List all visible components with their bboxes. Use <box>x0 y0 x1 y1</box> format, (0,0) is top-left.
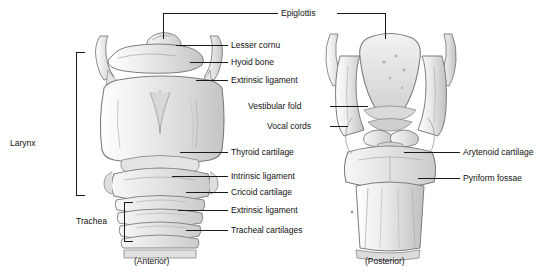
label-extrinsic-ligament-upper: Extrinsic ligament <box>231 75 298 85</box>
leader-epiglottis-v2 <box>385 13 386 39</box>
leader-lesser-cornu <box>176 45 228 46</box>
leader-epiglottis-v <box>163 13 164 39</box>
leader-cricoid-cartilage <box>186 192 228 193</box>
label-arytenoid-cartilage: Arytenoid cartilage <box>463 147 533 157</box>
leader-hyoid-bone <box>190 62 228 63</box>
leader-extrinsic-ligament-upper <box>196 80 228 81</box>
posterior-view-art <box>326 34 456 261</box>
label-hyoid-bone: Hyoid bone <box>231 57 274 67</box>
leader-tracheal-cartilages <box>186 230 228 231</box>
leader-thyroid-cartilage <box>180 152 228 153</box>
label-epiglottis: Epiglottis <box>281 8 316 18</box>
leader-intrinsic-ligament <box>172 176 228 177</box>
leader-epiglottis-h <box>163 13 278 14</box>
bracket-trachea <box>124 202 133 242</box>
bracket-larynx <box>76 52 85 196</box>
leader-epiglottis-h2 <box>337 13 385 14</box>
label-pyriform-fossae: Pyriform fossae <box>463 173 522 183</box>
leader-arytenoid-cartilage <box>404 152 460 153</box>
caption-anterior: (Anterior) <box>134 256 169 266</box>
label-extrinsic-ligament-lower: Extrinsic ligament <box>231 205 298 215</box>
anterior-view-art <box>96 33 225 258</box>
label-tracheal-cartilages: Tracheal cartilages <box>231 225 303 235</box>
label-vocal-cords: Vocal cords <box>267 121 311 131</box>
label-thyroid-cartilage: Thyroid cartilage <box>231 147 294 157</box>
leader-vocal-cords <box>330 126 348 127</box>
label-trachea: Trachea <box>76 216 107 226</box>
label-lesser-cornu: Lesser cornu <box>231 40 280 50</box>
caption-posterior: (Posterior) <box>365 256 405 266</box>
label-cricoid-cartilage: Cricoid cartilage <box>231 187 292 197</box>
leader-pyriform-fossae <box>418 178 460 179</box>
label-intrinsic-ligament: Intrinsic ligament <box>231 171 295 181</box>
label-larynx: Larynx <box>10 138 36 148</box>
label-vestibular-fold: Vestibular fold <box>248 101 301 111</box>
figure-canvas: Larynx Trachea Epiglottis Lesser cornu H… <box>0 0 557 276</box>
leader-extrinsic-ligament-lower <box>178 210 228 211</box>
leader-vestibular-fold <box>330 106 368 107</box>
